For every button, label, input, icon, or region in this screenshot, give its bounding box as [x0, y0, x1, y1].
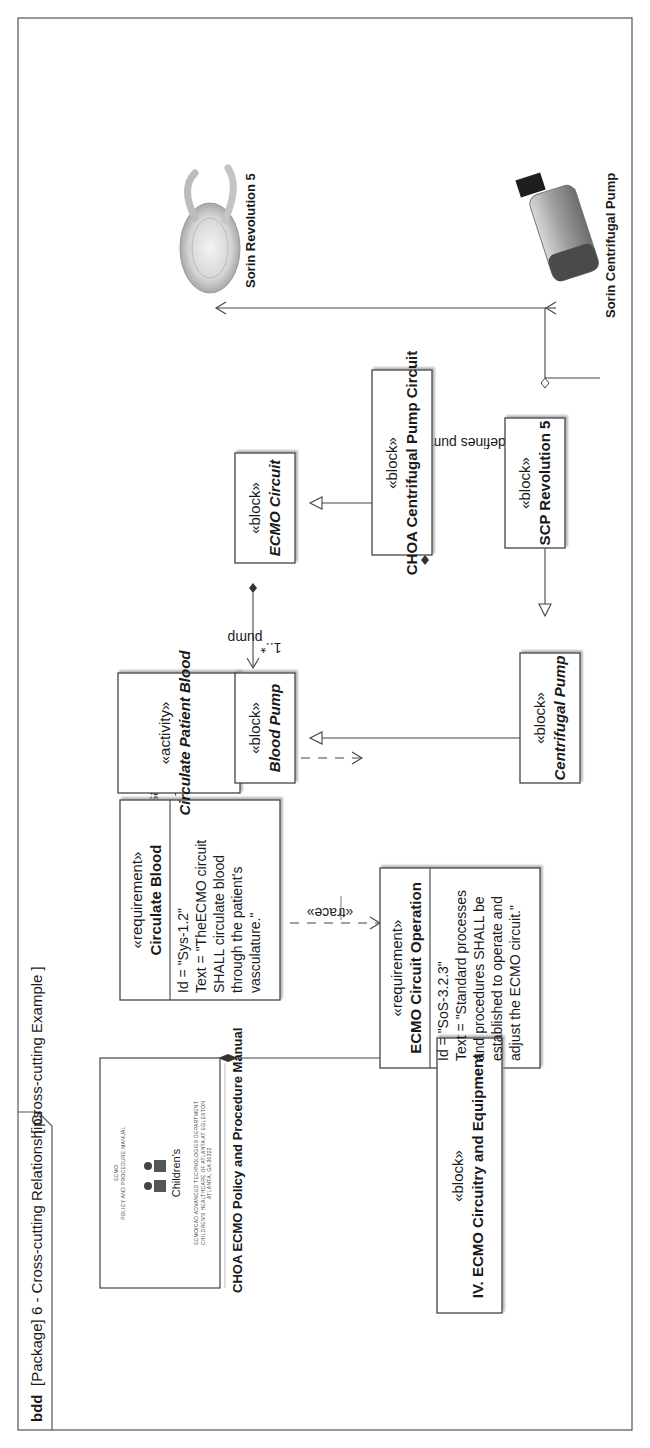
block-scp-revolution-5[interactable] [505, 418, 565, 548]
block-centrifugal-pump[interactable] [520, 653, 580, 783]
centrifugal-pump-stereotype: «block» [531, 692, 548, 744]
manual-caption: CHOA ECMO Policy and Procedure Manual [230, 1028, 245, 1293]
blood-pump-name: Blood Pump [266, 684, 283, 772]
pump-multiplicity-label: 1..* [260, 640, 282, 656]
req2-line: and procedures SHALL be [471, 896, 487, 1061]
generalization-centrifugal-to-blood-pump[interactable] [310, 732, 520, 744]
frame-title: [Package] 6 - Cross-cutting Relationship… [28, 1111, 45, 1386]
association-ecmo-circuit-blood-pump[interactable]: pump 1..* [227, 583, 281, 668]
manual-doc-line2: POLICY AND PROCEDURE MANUAL [120, 1126, 126, 1220]
frame-diagram-name: [ Cross-cutting Example ] [28, 966, 45, 1134]
req1-line: vasculature." [247, 913, 263, 993]
sorin-revolution-5-image [180, 168, 240, 293]
manual-doc-footer1: ECMO/CAD ADVANCED TECHNOLOGIES DEPARTMEN… [193, 1101, 199, 1245]
req1-name: Circulate Blood [147, 845, 164, 956]
activity-name: Circulate Patient Blood [176, 650, 193, 816]
block-choa-centrifugal-pump-circuit[interactable] [372, 370, 432, 555]
manual-doc-line1: ECMO [113, 1165, 119, 1181]
manual-doc-logo: Children's [170, 1148, 182, 1197]
block-ecmo-circuit[interactable] [235, 453, 295, 563]
sorin-centrifugal-pump-image [515, 172, 600, 283]
centrifugal-pump-name: Centrifugal Pump [551, 655, 568, 780]
generalization-choa-to-ecmo-circuit[interactable] [310, 497, 372, 509]
bdd-diagram-canvas: bdd [Package] 6 - Cross-cutting Relation… [0, 0, 650, 1448]
req1-line: Id = "Sys-1.2" [175, 908, 191, 993]
generalization-scp-to-centrifugal[interactable] [539, 548, 551, 616]
blood-pump-stereotype: «block» [246, 702, 263, 754]
manual-doc-footer3: ATLANTA, GA 30322 [206, 1147, 212, 1199]
ecmo-circuit-name: ECMO Circuit [266, 459, 283, 557]
scp-stereotype: «block» [516, 457, 533, 509]
req2-name: ECMO Circuit Operation [407, 882, 424, 1054]
circuitry-stereotype: «block» [449, 1150, 466, 1202]
trace-dependency-1[interactable]: «trace» [290, 896, 380, 929]
req2-line: Text = "Standard processes [453, 890, 469, 1061]
req1-stereotype: «requirement» [128, 852, 145, 949]
choa-name: CHOA Centrifugal Pump Circuit [403, 351, 420, 575]
block-blood-pump[interactable] [235, 673, 295, 783]
choa-stereotype: «block» [383, 437, 400, 489]
circuitry-name: IV. ECMO Circuitry and Equipment [469, 1054, 486, 1298]
trace-label-1: «trace» [306, 905, 353, 921]
scp-name: SCP Revolution 5 [536, 421, 553, 546]
revolution-caption: Sorin Revolution 5 [243, 173, 258, 288]
pump-role-label: pump [227, 630, 262, 646]
frame-kind: bdd [28, 1395, 45, 1423]
req2-line: established to operate and [489, 896, 505, 1061]
req2-stereotype: «requirement» [388, 920, 405, 1017]
req1-line: through the patient's [229, 867, 245, 993]
ecmo-circuit-stereotype: «block» [246, 482, 263, 534]
req1-line: Text = "TheECMO circuit [193, 840, 209, 993]
req2-line: adjust the ECMO circuit." [507, 905, 523, 1061]
req1-line: SHALL circulate blood [211, 855, 227, 993]
activity-stereotype: «activity» [156, 702, 173, 765]
centrifugal-caption: Sorin Centrifugal Pump [603, 173, 618, 318]
req2-line: Id = "SoS-3.2.3" [435, 961, 451, 1061]
